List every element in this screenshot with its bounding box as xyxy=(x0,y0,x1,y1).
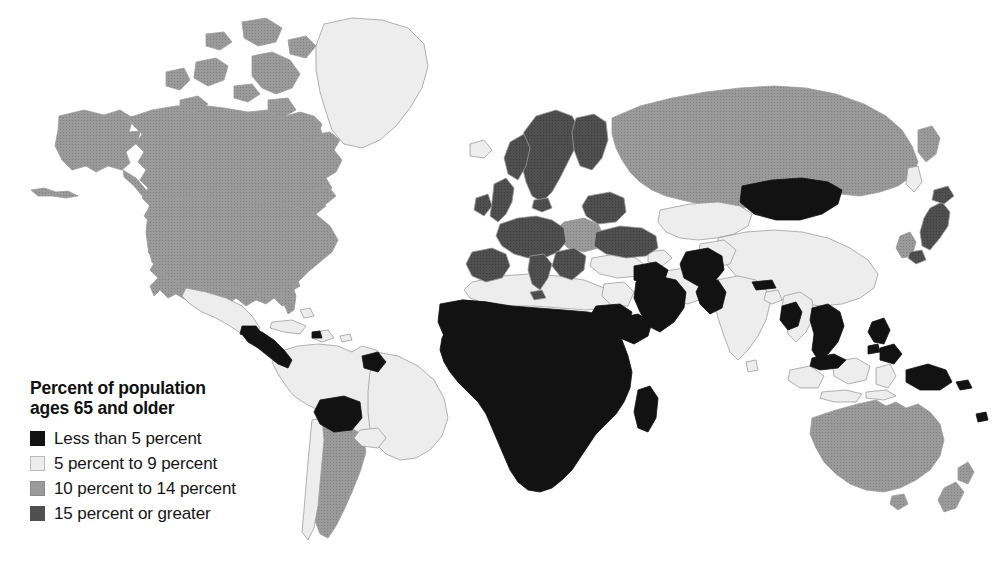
legend-title-line1: Percent of population xyxy=(30,378,300,398)
legend-row-15-plus: 15 percent or greater xyxy=(30,501,300,526)
legend-title: Percent of population ages 65 and older xyxy=(30,378,300,419)
legend-label-5-to-9: 5 percent to 9 percent xyxy=(54,455,217,472)
legend-swatch-under-5 xyxy=(30,431,45,446)
map-figure: Percent of population ages 65 and older … xyxy=(0,0,1002,562)
legend-row-under-5: Less than 5 percent xyxy=(30,426,300,451)
region-alaska xyxy=(55,110,140,172)
legend-swatch-15-plus xyxy=(30,506,45,521)
region-sri-lanka xyxy=(746,360,758,372)
region-fiji xyxy=(976,412,988,422)
legend-swatch-5-to-9 xyxy=(30,456,45,471)
legend-label-15-plus: 15 percent or greater xyxy=(54,505,211,522)
legend-title-line2: ages 65 and older xyxy=(30,398,300,418)
legend-label-under-5: Less than 5 percent xyxy=(54,430,201,447)
region-haiti xyxy=(312,331,322,338)
legend-row-5-to-9: 5 percent to 9 percent xyxy=(30,451,300,476)
legend-rows: Less than 5 percent 5 percent to 9 perce… xyxy=(30,426,300,526)
legend-label-10-to-14: 10 percent to 14 percent xyxy=(54,480,236,497)
legend-row-10-to-14: 10 percent to 14 percent xyxy=(30,476,300,501)
region-philippines-visayas xyxy=(868,344,880,354)
region-nepal xyxy=(752,280,776,290)
legend: Percent of population ages 65 and older … xyxy=(30,378,300,526)
legend-swatch-10-to-14 xyxy=(30,481,45,496)
